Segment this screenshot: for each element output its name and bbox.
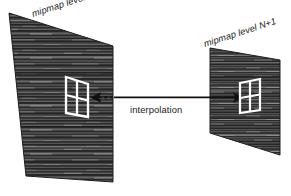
mipmap-interpolation-diagram: mipmap level N mipmap level N+1 interpol… (0, 0, 291, 196)
label-mipmap-level-n-plus-1: mipmap level N+1 (203, 16, 278, 49)
label-interpolation: interpolation (130, 104, 182, 115)
mipmap-level-n-plane (5, 13, 120, 182)
label-mipmap-level-n: mipmap level N (31, 0, 96, 19)
diagram-canvas: mipmap level N mipmap level N+1 interpol… (0, 0, 291, 196)
right-plane-texture (210, 48, 280, 155)
mipmap-level-n-plus-1-plane (205, 48, 285, 155)
